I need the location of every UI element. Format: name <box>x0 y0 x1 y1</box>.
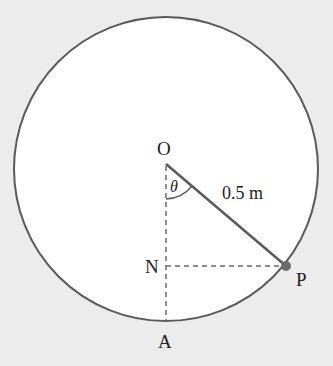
diagram-canvas: O θ 0.5 m N P A <box>0 0 333 366</box>
label-a: A <box>158 332 172 351</box>
label-n: N <box>145 257 159 276</box>
label-radius-length: 0.5 m <box>222 184 263 202</box>
diagram-svg <box>0 0 333 366</box>
point-p-marker <box>281 261 291 271</box>
label-o: O <box>157 139 171 158</box>
label-theta: θ <box>170 179 178 195</box>
label-p: P <box>296 270 307 289</box>
